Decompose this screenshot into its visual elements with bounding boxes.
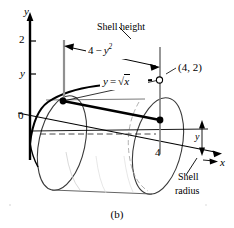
local-x-arrowhead	[210, 159, 219, 165]
shell-radius-label-line2: radius	[175, 186, 199, 196]
point-on-curve-left	[60, 98, 67, 105]
shell-radius-value-label: y	[195, 132, 199, 142]
width-arrow-left-head	[64, 43, 74, 50]
curve-eq-sqrt-group: √x	[118, 76, 130, 87]
point-4-2-label: (4, 2)	[178, 62, 202, 73]
shell-radius-dimension	[199, 120, 205, 156]
scan-speckle-2	[205, 204, 207, 206]
width-arrow-right-head	[150, 64, 160, 71]
shell-radius-arrow-down	[199, 148, 205, 157]
shell-height-expression: 4−y2	[88, 44, 112, 56]
figure-caption: (b)	[0, 208, 234, 220]
curve-eq-radicand: x	[124, 74, 130, 87]
local-x-arrow	[203, 159, 218, 165]
curve-equation-label: y=√x	[103, 76, 130, 87]
shell-radius-label-line1: Shell	[178, 172, 199, 182]
shell-radius-arrow-up	[199, 120, 205, 129]
shell-height-label: Shell height	[97, 22, 145, 32]
expr-four: 4	[88, 44, 94, 56]
expr-exponent-2: 2	[109, 43, 113, 51]
scan-speckle-1	[9, 204, 11, 206]
x-tick-4-label: 4	[155, 147, 161, 158]
expr-minus: −	[94, 44, 104, 56]
point-label-leader	[166, 68, 176, 74]
origin-label: 0	[18, 110, 24, 121]
curve-eq-equals: =	[108, 75, 118, 87]
point-on-axis-right	[157, 117, 164, 124]
x-axis-name-label: x	[220, 157, 225, 168]
cylinder-solid	[30, 91, 192, 199]
curve-lower-branch	[30, 143, 38, 167]
figure-container: y 2 y 0 Shell height 4−y2 y=√x (4, 2) 4 …	[0, 0, 234, 228]
y-tick-y-label: y	[20, 68, 25, 79]
y-tick-2-label: 2	[19, 34, 25, 45]
point-4-2-open-circle	[156, 77, 162, 83]
y-axis-name-label: y	[24, 6, 29, 17]
